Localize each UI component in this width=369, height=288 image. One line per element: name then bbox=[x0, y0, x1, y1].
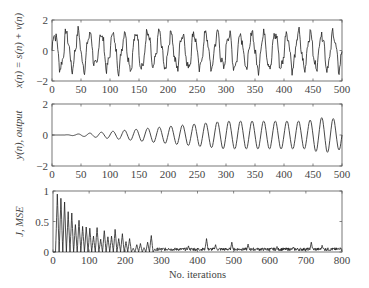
plot-input-signal: 050100150200250300350400450500−202x(n) =… bbox=[13, 13, 351, 95]
x-axis-label: No. iterations bbox=[169, 269, 226, 280]
x-tick-label: 250 bbox=[189, 83, 206, 95]
x-tick-label: 0 bbox=[50, 254, 56, 266]
axes-frame bbox=[53, 191, 342, 252]
x-tick-label: 100 bbox=[81, 254, 98, 266]
figure: 050100150200250300350400450500−202x(n) =… bbox=[0, 0, 369, 288]
x-tick-label: 300 bbox=[153, 254, 170, 266]
y-tick-label: −2 bbox=[36, 75, 48, 87]
y-axis-label: J, MSE bbox=[14, 206, 25, 237]
data-line bbox=[52, 26, 342, 76]
x-tick-label: 50 bbox=[76, 168, 88, 180]
data-line bbox=[53, 194, 342, 252]
x-tick-label: 500 bbox=[225, 254, 242, 266]
x-tick-label: 0 bbox=[49, 83, 55, 95]
y-axis-label: y(n), output bbox=[13, 109, 25, 160]
y-axis-label: x(n) = s(n) + v(n) bbox=[13, 13, 25, 89]
x-tick-label: 250 bbox=[189, 168, 206, 180]
x-tick-label: 450 bbox=[305, 168, 322, 180]
x-tick-label: 450 bbox=[305, 83, 322, 95]
x-tick-label: 400 bbox=[189, 254, 206, 266]
x-tick-label: 0 bbox=[49, 168, 55, 180]
x-tick-label: 150 bbox=[131, 168, 148, 180]
x-tick-label: 350 bbox=[247, 83, 264, 95]
plot-mse-learning-curve: 010020030040050060070080000.51J, MSENo. … bbox=[14, 185, 351, 280]
x-tick-label: 50 bbox=[76, 83, 88, 95]
y-tick-label: 0 bbox=[43, 45, 49, 57]
x-tick-label: 500 bbox=[334, 83, 351, 95]
y-tick-label: 2 bbox=[43, 98, 49, 110]
x-tick-label: 600 bbox=[262, 254, 279, 266]
x-tick-label: 200 bbox=[160, 168, 177, 180]
x-tick-label: 100 bbox=[102, 83, 119, 95]
y-tick-label: 2 bbox=[43, 14, 49, 26]
y-tick-label: 0 bbox=[44, 246, 50, 258]
x-tick-label: 100 bbox=[102, 168, 119, 180]
x-tick-label: 200 bbox=[117, 254, 134, 266]
x-tick-label: 800 bbox=[334, 254, 351, 266]
x-tick-label: 300 bbox=[218, 83, 235, 95]
y-tick-label: 0 bbox=[43, 129, 49, 141]
x-tick-label: 700 bbox=[298, 254, 315, 266]
x-tick-label: 350 bbox=[247, 168, 264, 180]
data-line bbox=[52, 118, 342, 153]
x-tick-label: 150 bbox=[131, 83, 148, 95]
x-tick-label: 400 bbox=[276, 83, 293, 95]
x-tick-label: 500 bbox=[334, 168, 351, 180]
plot-output-signal: 050100150200250300350400450500−202y(n), … bbox=[13, 98, 351, 180]
y-tick-label: −2 bbox=[36, 160, 48, 172]
x-tick-label: 400 bbox=[276, 168, 293, 180]
x-tick-label: 200 bbox=[160, 83, 177, 95]
y-tick-label: 0.5 bbox=[35, 216, 49, 228]
y-tick-label: 1 bbox=[44, 185, 50, 197]
x-tick-label: 300 bbox=[218, 168, 235, 180]
